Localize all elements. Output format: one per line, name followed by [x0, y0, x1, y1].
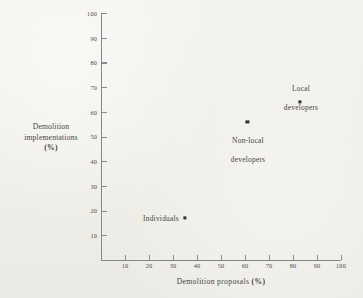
x-tick-30: [173, 255, 174, 260]
y-axis-title: Demolition implementations (%): [6, 122, 96, 154]
data-label-non-local-developers: Non-local developers: [213, 126, 283, 164]
y-tick-20: [102, 211, 107, 212]
y-ticklabel-90: 90: [75, 35, 97, 42]
scatter-plot: 100 90 80 70 60 50 40 30 20 10 10 20 30 …: [0, 0, 363, 298]
data-label-individuals: Individuals: [105, 214, 179, 224]
x-ticklabel-30: 30: [161, 262, 185, 269]
y-tick-10: [102, 235, 107, 236]
data-label-local-developers-line1: Local: [292, 84, 310, 93]
data-label-non-local-developers-line1: Non-local: [232, 136, 264, 145]
y-axis-title-line1: Demolition: [33, 122, 70, 131]
x-ticklabel-70: 70: [257, 262, 281, 269]
y-tick-70: [102, 87, 107, 88]
x-axis-title-text: Demolition proposals: [177, 277, 250, 286]
x-ticklabel-40: 40: [185, 262, 209, 269]
y-ticklabel-100: 100: [75, 10, 97, 17]
x-tick-20: [149, 255, 150, 260]
y-ticklabel-80: 80: [75, 59, 97, 66]
data-label-local-developers-line2: developers: [284, 103, 319, 112]
data-label-non-local-developers-line2: developers: [231, 155, 266, 164]
x-ticklabel-10: 10: [113, 262, 137, 269]
x-tick-50: [221, 255, 222, 260]
y-ticklabel-20: 20: [75, 207, 97, 214]
y-tick-80: [102, 62, 107, 63]
y-axis-title-line2: implementations: [24, 133, 78, 142]
x-ticklabel-100: 100: [329, 262, 353, 269]
y-ticklabel-40: 40: [75, 158, 97, 165]
x-tick-40: [197, 255, 198, 260]
x-tick-70: [269, 255, 270, 260]
y-ticklabel-60: 60: [75, 109, 97, 116]
y-ticklabel-30: 30: [75, 183, 97, 190]
x-tick-90: [317, 255, 318, 260]
y-tick-100: [102, 13, 107, 14]
x-tick-100: [341, 255, 342, 260]
data-label-local-developers: Local developers: [266, 74, 336, 112]
x-ticklabel-60: 60: [233, 262, 257, 269]
x-axis-title-unit: (%): [252, 277, 266, 286]
data-point-individuals[interactable]: [183, 216, 186, 219]
x-ticklabel-20: 20: [137, 262, 161, 269]
y-ticklabel-10: 10: [75, 232, 97, 239]
x-ticklabel-80: 80: [281, 262, 305, 269]
scan-edge-artifact: [0, 291, 363, 298]
data-point-non-local-developers[interactable]: [246, 120, 249, 123]
x-ticklabel-50: 50: [209, 262, 233, 269]
y-axis-title-unit: (%): [44, 143, 57, 152]
y-tick-30: [102, 186, 107, 187]
x-axis-title: Demolition proposals (%): [101, 277, 341, 286]
y-tick-60: [102, 112, 107, 113]
y-tick-50: [102, 137, 107, 138]
x-ticklabel-90: 90: [305, 262, 329, 269]
x-tick-10: [125, 255, 126, 260]
x-tick-80: [293, 255, 294, 260]
x-tick-60: [245, 255, 246, 260]
y-ticklabel-70: 70: [75, 84, 97, 91]
y-tick-40: [102, 161, 107, 162]
y-tick-90: [102, 38, 107, 39]
